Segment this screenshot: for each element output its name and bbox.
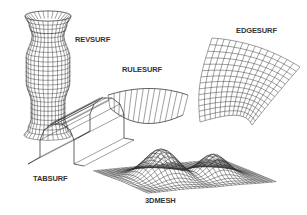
- revsurf-label: REVSURF: [75, 35, 110, 44]
- 3dmesh-label: 3DMESH: [145, 196, 176, 205]
- revsurf-vase-mesh: [24, 11, 72, 140]
- edgesurf-label: EDGESURF: [236, 26, 277, 35]
- rulesurf-mesh: [108, 89, 188, 124]
- edgesurf-mesh: [199, 38, 300, 125]
- surfaces-figure: REVSURF EDGESURF RULESURF TABSURF 3DMESH: [0, 0, 307, 215]
- tabsurf-mesh: [28, 97, 134, 166]
- 3dmesh-surface: [94, 149, 277, 193]
- rulesurf-label: RULESURF: [122, 65, 162, 74]
- tabsurf-label: TABSURF: [33, 174, 68, 183]
